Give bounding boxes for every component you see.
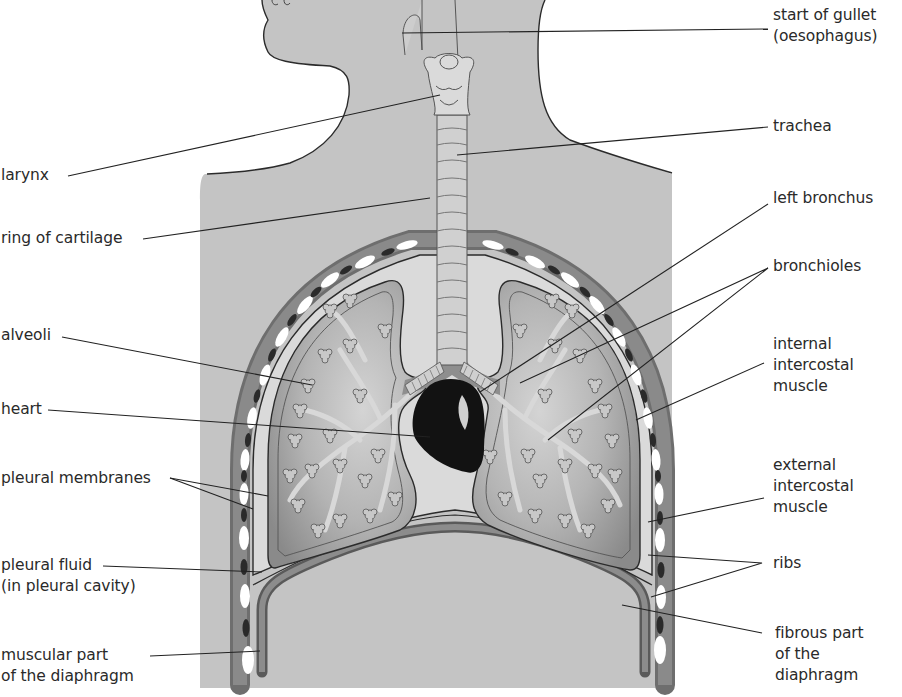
label-gullet: start of gullet (oesophagus) [773, 5, 877, 47]
label-heart: heart [1, 399, 42, 420]
label-pleural-membranes: pleural membranes [1, 468, 151, 489]
label-left-bronchus: left bronchus [773, 188, 873, 209]
label-trachea: trachea [773, 116, 832, 137]
label-pleural-fluid: pleural fluid (in pleural cavity) [1, 555, 136, 597]
label-external-intercostal: external intercostal muscle [773, 455, 854, 518]
label-fibrous-diaphragm: fibrous part of the diaphragm [775, 623, 864, 686]
label-bronchioles: bronchioles [773, 256, 861, 277]
label-larynx: larynx [1, 165, 49, 186]
label-ribs: ribs [773, 553, 801, 574]
label-internal-intercostal: internal intercostal muscle [773, 334, 854, 397]
label-muscular-diaphragm: muscular part of the diaphragm [1, 645, 134, 687]
label-ring-of-cartilage: ring of cartilage [1, 228, 122, 249]
label-alveoli: alveoli [1, 325, 51, 346]
